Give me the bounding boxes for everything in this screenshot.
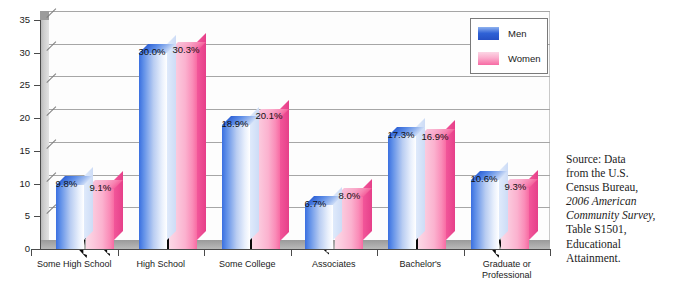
x-axis-tick (377, 249, 378, 256)
y-axis-tick (34, 20, 40, 21)
bar-men (388, 136, 416, 249)
bar-front-face (139, 53, 167, 249)
bar-value-label: 6.7% (305, 199, 327, 209)
bar-front-face (388, 136, 416, 249)
x-axis-tick (291, 249, 292, 256)
y-axis-label: 0 (4, 244, 30, 254)
bar-side-face (167, 35, 176, 240)
y-axis-tick (34, 184, 40, 185)
gridline (49, 11, 550, 12)
y-axis-tick (34, 85, 40, 86)
bar-front-face (305, 205, 333, 249)
bar-value-label: 8.0% (339, 191, 361, 201)
men-swatch-icon (478, 27, 499, 40)
y-axis-tick (34, 151, 40, 152)
y-axis-label: 10 (4, 179, 30, 189)
source-note-line: Community Survey, (566, 208, 678, 222)
bar-value-label: 9.8% (56, 179, 78, 189)
legend-item-men: Men (478, 27, 526, 40)
x-axis-label: Some High School (24, 259, 124, 270)
source-note-line: 2006 American (566, 194, 678, 208)
bar-value-label: 10.6% (471, 174, 498, 184)
chart-legend: Men Women (470, 18, 548, 74)
bar-men (139, 53, 167, 249)
gridline (49, 142, 550, 143)
x-axis-label: Some College (197, 259, 297, 270)
bar-side-face (197, 33, 206, 240)
source-note: Source: Datafrom the U.S.Census Bureau,2… (566, 152, 678, 265)
bar-front-face (222, 125, 250, 249)
gridline-connector (40, 76, 49, 85)
bar-value-label: 9.1% (90, 183, 112, 193)
gridline-connector (40, 142, 49, 151)
y-axis-label: 35 (4, 15, 30, 25)
source-note-line: Census Bureau, (566, 180, 678, 194)
educational-attainment-figure: 05101520253035 9.8%30.0%18.9%6.7%17.3%10… (0, 0, 678, 288)
x-axis-tick (204, 249, 205, 256)
bar-value-label: 30.3% (173, 45, 200, 55)
gridline-connector (40, 109, 49, 118)
source-note-line: Source: Data (566, 152, 678, 166)
y-axis-label: 25 (4, 80, 30, 90)
bar-chart: 05101520253035 9.8%30.0%18.9%6.7%17.3%10… (0, 0, 560, 288)
source-note-line: Attainment. (566, 251, 678, 265)
gridline-connector (40, 207, 49, 216)
legend-label-men: Men (508, 28, 526, 39)
bar-value-label: 18.9% (222, 119, 249, 129)
y-axis-label: 30 (4, 48, 30, 58)
gridline-connector (40, 175, 49, 184)
women-swatch-icon (478, 52, 499, 65)
bar-men (222, 125, 250, 249)
x-axis-tick (464, 249, 465, 256)
bar-value-label: 17.3% (388, 130, 415, 140)
bar-men (305, 205, 333, 249)
gridline (49, 109, 550, 110)
bar-front-face (56, 185, 84, 249)
y-axis-label: 5 (4, 211, 30, 221)
x-axis-tick (31, 249, 32, 256)
y-axis-tick (34, 118, 40, 119)
bar-value-label: 16.9% (422, 132, 449, 142)
source-note-line: from the U.S. (566, 166, 678, 180)
bar-men (56, 185, 84, 249)
source-note-line: Educational (566, 237, 678, 251)
bar-side-face (250, 107, 259, 240)
gridline-connector (40, 11, 49, 20)
y-axis-label: 15 (4, 146, 30, 156)
x-axis-label: Graduate or Professional (457, 259, 557, 281)
x-axis-label: High School (111, 259, 211, 270)
bar-value-label: 9.3% (505, 182, 527, 192)
y-axis-tick (34, 53, 40, 54)
gridline-connector (40, 44, 49, 53)
bar-men (471, 180, 499, 249)
x-axis-label: Bachelor's (370, 259, 470, 270)
gridline (49, 76, 550, 77)
y-axis-label: 20 (4, 113, 30, 123)
legend-item-women: Women (478, 52, 541, 65)
y-axis-tick (34, 216, 40, 217)
bar-front-face (471, 180, 499, 249)
x-axis-label: Associates (284, 259, 384, 270)
bar-value-label: 20.1% (256, 111, 283, 121)
x-axis-tick (118, 249, 119, 256)
x-axis-tick (550, 249, 551, 256)
legend-label-women: Women (508, 53, 541, 64)
bar-value-label: 30.0% (139, 47, 166, 57)
source-note-line: Table S1501, (566, 222, 678, 236)
